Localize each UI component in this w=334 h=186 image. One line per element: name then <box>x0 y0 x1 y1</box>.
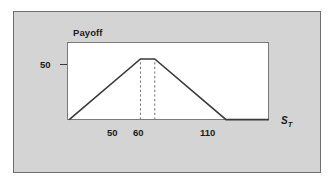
payoff-line <box>69 59 269 120</box>
x-tick-label-60: 60 <box>133 128 144 138</box>
y-axis-tick-mark-50 <box>60 64 67 65</box>
x-axis-label-st: ST <box>281 116 292 129</box>
x-axis-label-st-base: S <box>281 115 288 126</box>
x-axis-label-st-subscript: T <box>288 120 293 129</box>
payoff-axis-title: Payoff <box>73 28 103 38</box>
plot-area <box>67 42 269 120</box>
x-tick-label-110: 110 <box>200 128 215 138</box>
x-tick-label-50: 50 <box>107 128 118 138</box>
payoff-chart-svg <box>68 43 270 121</box>
figure-panel: Payoff 50 50 60 110 ST <box>13 11 321 173</box>
y-tick-label-50: 50 <box>40 60 51 70</box>
